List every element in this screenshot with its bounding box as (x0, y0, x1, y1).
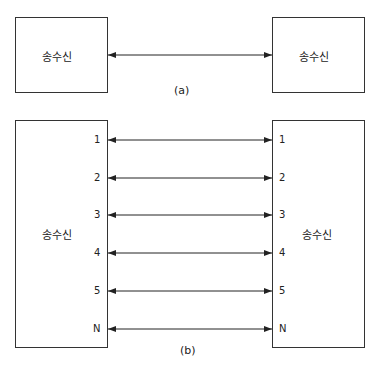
arrows-layer (0, 0, 379, 372)
